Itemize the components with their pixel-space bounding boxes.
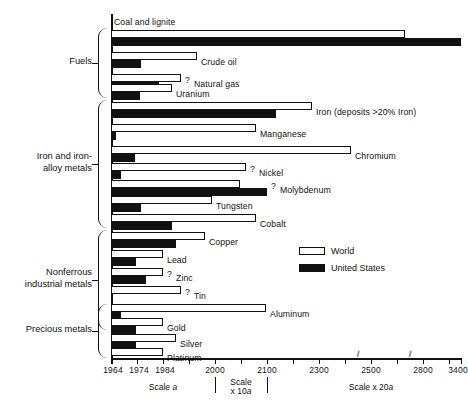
bar-label: Natural gas (194, 79, 240, 89)
legend-item-united-states: United States (299, 263, 385, 273)
bar-world (111, 232, 205, 240)
bar-united-states (111, 60, 141, 68)
bar-label: Tin (194, 291, 206, 301)
x-axis-tick-label: 1964 (103, 365, 123, 375)
scale-segment-delimiter (267, 377, 268, 393)
bracket-nose (92, 164, 98, 165)
bar-united-states (111, 294, 113, 302)
category-bracket-label: Nonferrous industrial metals (25, 267, 92, 290)
bar-united-states (111, 38, 461, 46)
x-axis-tick (371, 358, 372, 364)
x-axis-tick-label: 2300 (309, 365, 329, 375)
uncertainty-question-mark: ? (271, 181, 276, 191)
bar-united-states (111, 258, 136, 266)
x-axis-tick (345, 358, 346, 364)
bar-world (111, 124, 256, 132)
uncertainty-question-mark: ? (167, 269, 172, 279)
x-axis-tick (449, 358, 450, 364)
bar-united-states (111, 326, 136, 334)
bar-label: Lead (167, 255, 187, 265)
scale-segment-delimiter (215, 377, 216, 393)
bar-united-states (111, 171, 121, 179)
bracket-nose (92, 63, 98, 64)
bar-united-states (111, 188, 267, 196)
bar-world (111, 52, 197, 60)
bar-world (111, 74, 181, 82)
x-axis-tick-label: 1974 (129, 365, 149, 375)
x-axis-tick-label: 2800 (413, 365, 433, 375)
uncertainty-question-mark: ? (250, 164, 255, 174)
bracket-curve (98, 304, 107, 358)
bar-united-states (111, 92, 140, 100)
bar-label: Zinc (176, 273, 193, 283)
bar-label: Aluminum (270, 309, 309, 319)
bar-united-states (111, 132, 116, 140)
x-axis-tick-label: 3400 (448, 365, 468, 375)
bar-world (111, 250, 163, 258)
legend-swatch-world-icon (299, 247, 325, 255)
bar-label: Manganese (260, 129, 306, 139)
legend-label-world: World (331, 246, 354, 256)
bar-world (111, 334, 176, 342)
bar-label: Coal and lignite (114, 17, 176, 27)
x-axis-tick-label: 2000 (205, 365, 225, 375)
bar-world (111, 84, 172, 92)
category-bracket (96, 28, 110, 98)
bracket-nose (92, 280, 98, 281)
category-bracket-label: Fuels (69, 56, 92, 68)
bar-world (111, 304, 266, 312)
x-axis-tick-label: 2500 (361, 365, 381, 375)
bar-label: Chromium (355, 151, 396, 161)
bar-label: Cobalt (260, 219, 286, 229)
bar-world (111, 163, 246, 171)
bar-world (111, 102, 312, 110)
bar-united-states (111, 356, 113, 364)
legend-label-united-states: United States (331, 263, 385, 273)
bar-united-states (111, 154, 135, 162)
axis-scale-label: Scalex 10a (230, 378, 251, 396)
bar-united-states (111, 222, 172, 230)
x-axis-tick (461, 358, 462, 364)
bar-world (111, 30, 405, 38)
uncertainty-question-mark: ? (185, 287, 190, 297)
bar-united-states (111, 276, 146, 284)
legend-item-world: World (299, 246, 354, 256)
bar-label: Silver (180, 339, 202, 349)
x-axis-tick (215, 358, 216, 364)
x-axis-tick (293, 358, 294, 364)
bar-label: Uranium (176, 89, 210, 99)
x-axis-tick (241, 358, 242, 364)
category-bracket-label: Precious metals (26, 324, 92, 336)
bar-label: Molybdenum (280, 185, 331, 195)
bar-world (111, 348, 163, 356)
axis-scale-label: Scale x 20a (349, 383, 393, 392)
x-axis-tick-label: 1984 (155, 365, 175, 375)
x-axis-tick (267, 358, 268, 364)
category-bracket (96, 304, 110, 358)
bar-label: Nickel (259, 168, 283, 178)
bar-world (111, 214, 256, 222)
bar-world (111, 318, 163, 326)
bar-world (111, 180, 240, 188)
uncertainty-question-mark: ? (185, 75, 190, 85)
bracket-curve (98, 100, 107, 228)
bar-united-states (111, 204, 141, 212)
legend-swatch-united-states-icon (299, 264, 325, 272)
bar-world (111, 146, 351, 154)
x-axis-tick (423, 358, 424, 364)
bar-label: Platinum (167, 353, 202, 363)
x-axis-tick-label: 2100 (257, 365, 277, 375)
bar-label: Iron (deposits >20% Iron) (316, 107, 416, 117)
x-axis-tick (137, 358, 138, 364)
x-axis-tick (397, 358, 398, 364)
bar-label: Tungsten (216, 201, 253, 211)
category-bracket-label: Iron and iron- alloy metals (37, 151, 92, 174)
bar-world (111, 268, 163, 276)
bar-label: Copper (209, 237, 238, 247)
bar-world (111, 196, 212, 204)
axis-scale-label: Scale a (149, 383, 177, 392)
bar-world (111, 286, 181, 294)
bar-united-states (111, 110, 276, 118)
bracket-curve (98, 28, 107, 98)
